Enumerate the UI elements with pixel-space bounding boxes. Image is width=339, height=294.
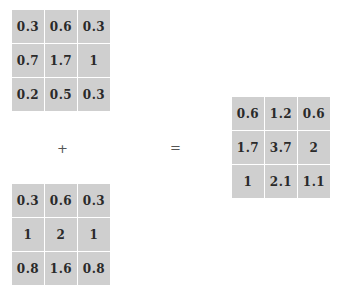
- result-matrix-cell: 2.1: [265, 165, 297, 198]
- matrix-a-cell: 0.6: [45, 10, 77, 43]
- result-matrix-cell: 3.7: [265, 131, 297, 164]
- matrix-a-cell: 0.3: [78, 10, 110, 43]
- matrix-a: 0.3 0.6 0.3 0.7 1.7 1 0.2 0.5 0.3: [12, 10, 110, 111]
- result-matrix: 0.6 1.2 0.6 1.7 3.7 2 1 2.1 1.1: [232, 97, 330, 198]
- matrix-a-cell: 1.7: [45, 44, 77, 77]
- result-matrix-cell: 0.6: [298, 97, 330, 130]
- matrix-a-cell: 0.2: [12, 78, 44, 111]
- result-matrix-cell: 1.2: [265, 97, 297, 130]
- matrix-b-cell: 2: [45, 218, 77, 251]
- matrix-b: 0.3 0.6 0.3 1 2 1 0.8 1.6 0.8: [12, 184, 110, 285]
- matrix-a-cell: 0.5: [45, 78, 77, 111]
- result-matrix-cell: 1: [232, 165, 264, 198]
- matrix-a-cell: 1: [78, 44, 110, 77]
- matrix-b-cell: 0.8: [12, 252, 44, 285]
- equals-operator: =: [170, 140, 181, 155]
- matrix-b-cell: 0.6: [45, 184, 77, 217]
- matrix-a-cell: 0.3: [12, 10, 44, 43]
- matrix-b-cell: 0.8: [78, 252, 110, 285]
- matrix-b-cell: 1: [78, 218, 110, 251]
- matrix-b-cell: 1.6: [45, 252, 77, 285]
- matrix-b-cell: 0.3: [12, 184, 44, 217]
- result-matrix-cell: 1.7: [232, 131, 264, 164]
- plus-operator: +: [57, 141, 68, 156]
- result-matrix-cell: 1.1: [298, 165, 330, 198]
- matrix-a-cell: 0.3: [78, 78, 110, 111]
- matrix-a-cell: 0.7: [12, 44, 44, 77]
- result-matrix-cell: 2: [298, 131, 330, 164]
- matrix-b-cell: 1: [12, 218, 44, 251]
- result-matrix-cell: 0.6: [232, 97, 264, 130]
- matrix-b-cell: 0.3: [78, 184, 110, 217]
